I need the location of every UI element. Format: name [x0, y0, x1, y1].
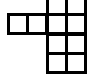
grid-cell: [65, 52, 87, 74]
grid-cell: [65, 13, 87, 35]
grid-cell: [26, 13, 48, 35]
